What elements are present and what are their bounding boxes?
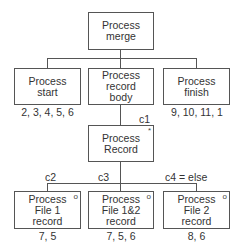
selection-marker-icon: o (147, 193, 151, 201)
connector-body-drop (120, 58, 121, 68)
process-start-box: Process start (14, 68, 81, 105)
process-file2-record-ops: 8, 6 (163, 230, 230, 242)
connector-record-down (120, 161, 121, 183)
process-start-ops: 2, 3, 4, 5, 6 (14, 106, 81, 118)
process-start-label: Process start (29, 76, 67, 98)
condition-c1: c1 (139, 113, 150, 125)
selection-marker-icon: o (223, 193, 227, 201)
process-finish-box: Process finish (163, 68, 230, 105)
process-finish-ops: 9, 10, 11, 1 (160, 106, 234, 118)
connector-start-drop (47, 58, 48, 68)
process-file12-record-ops: 7, 5, 6 (88, 230, 154, 242)
process-merge-label: Process merge (102, 20, 140, 42)
process-merge-box: Process merge (88, 12, 154, 50)
process-file2-record-label: Process File 2 record (178, 194, 216, 227)
condition-c3: c3 (98, 171, 109, 183)
process-file12-record-box: Process File 1&2 record o (88, 191, 154, 229)
process-finish-label: Process finish (178, 76, 216, 98)
selection-marker-icon: o (74, 193, 78, 201)
process-file1-record-box: Process File 1 record o (14, 191, 81, 229)
connector-file2-drop (196, 183, 197, 191)
connector-body-to-record (120, 104, 121, 125)
process-record-body-label: Process record body (102, 70, 140, 103)
process-file2-record-box: Process File 2 record o (163, 191, 230, 229)
process-file12-record-label: Process File 1&2 record (102, 194, 141, 227)
iteration-marker-icon: * (148, 127, 151, 135)
connector-file1-drop (47, 183, 48, 191)
process-file1-record-label: Process File 1 record (29, 194, 67, 227)
connector-level3-bar (47, 183, 197, 184)
process-record-body-box: Process record body (88, 68, 154, 105)
connector-level1-bar (47, 58, 196, 59)
connector-root-down (120, 49, 121, 58)
connector-finish-drop (196, 58, 197, 68)
process-record-box: Process Record * (88, 125, 154, 162)
process-file1-record-ops: 7, 5 (14, 230, 81, 242)
condition-c4: c4 = else (165, 171, 207, 183)
process-record-label: Process Record (102, 133, 140, 155)
connector-file12-drop (120, 183, 121, 191)
condition-c2: c2 (45, 171, 56, 183)
